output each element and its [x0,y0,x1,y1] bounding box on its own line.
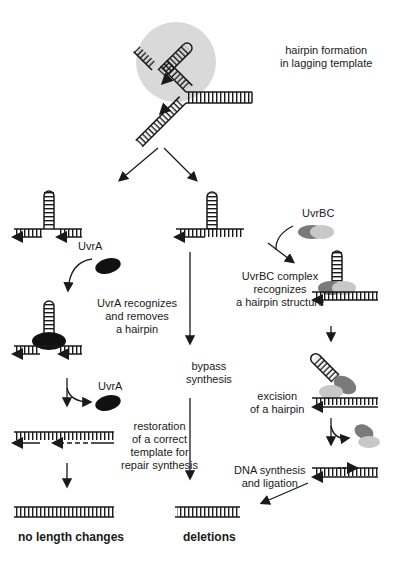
restored-template [14,432,114,443]
label-uvra-2: UvrA [98,380,122,393]
label-line: excision [250,390,304,403]
label-line: bypass [186,360,232,373]
label-line: hairpin formation [280,44,372,57]
arrow-left-branch [120,148,158,180]
leading-arm [136,97,186,147]
label-bypass: bypass synthesis [186,360,232,386]
label-restoration: restoration of a correct template for re… [121,420,198,472]
label-line: of a correct [121,433,198,446]
uvra-protein-2 [94,392,123,413]
label-uvrbc-recognizes: UvrBC complex recognizes a hairpin struc… [236,270,324,309]
uvra-protein-1 [94,255,123,276]
uvrbc-protein [298,225,334,239]
full-length-duplex [14,507,114,517]
label-uvrbc: UvrBC [302,207,334,220]
label-uvra-recognizes: UvrA recognizes and removes a hairpin [97,297,177,336]
label-line: restoration [121,420,198,433]
outcome-no-length-changes: no length changes [18,530,124,544]
label-line: a hairpin [97,323,177,336]
parental-duplex [186,92,252,103]
gap-filled-duplex [312,468,378,477]
replication-fork-hairpin [134,22,252,147]
label-line: repair synthesis [121,459,198,472]
label-line: UvrBC complex [236,270,324,283]
label-line: and ligation [234,477,306,490]
label-excision: excision of a hairpin [250,390,304,416]
left-hairpin-uvra [14,301,82,354]
arrow-uvra-bind [68,259,92,290]
excision-complex [309,352,378,407]
label-line: and removes [97,310,177,323]
label-line: synthesis [186,373,232,386]
label-line: in lagging template [280,57,372,70]
label-line: UvrA recognizes [97,297,177,310]
label-line: a hairpin structure [236,296,324,309]
middle-hairpin [176,192,244,237]
arrow-middle-branch [164,148,196,180]
deleted-duplex [175,507,240,517]
released-uvrbc [352,421,380,448]
label-hairpin-formation: hairpin formation in lagging template [280,44,372,70]
label-dna-synthesis: DNA synthesis and ligation [234,464,306,490]
diagram-canvas [0,0,402,567]
left-hairpin-1 [14,191,82,237]
label-line: of a hairpin [250,403,304,416]
label-line: template for [121,446,198,459]
label-line: recognizes [236,283,324,296]
outcome-deletions: deletions [183,530,236,544]
label-uvra-1: UvrA [78,240,102,253]
label-line: DNA synthesis [234,464,306,477]
